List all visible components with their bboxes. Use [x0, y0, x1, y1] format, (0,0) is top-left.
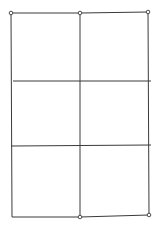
- node-bottom-middle-circle-icon: [78, 215, 82, 219]
- grid-diagram: [0, 0, 160, 232]
- line-top-right-half: [80, 12, 148, 13]
- node-bottom-right-circle-icon: [147, 213, 151, 217]
- grid-lines: [11, 12, 151, 217]
- line-bottom-right-half: [80, 215, 149, 217]
- line-right-side: [148, 12, 149, 215]
- node-top-right-circle-icon: [146, 10, 150, 14]
- line-row-divider-2: [11, 145, 151, 146]
- line-left-side: [11, 13, 12, 217]
- node-top-middle-circle-icon: [78, 11, 82, 15]
- node-top-left-circle-icon: [9, 11, 13, 15]
